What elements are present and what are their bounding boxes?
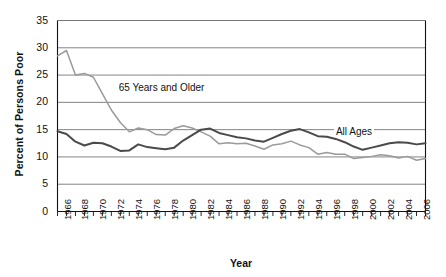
- plot-area: [0, 0, 446, 277]
- series-label-65-years-and-older: 65 Years and Older: [117, 82, 207, 93]
- series-label-all-ages: All Ages: [334, 126, 374, 137]
- poverty-rate-line-chart: Percent of Persons Poor Year 05101520253…: [0, 0, 446, 277]
- series-line-65-years-and-older: [58, 51, 426, 161]
